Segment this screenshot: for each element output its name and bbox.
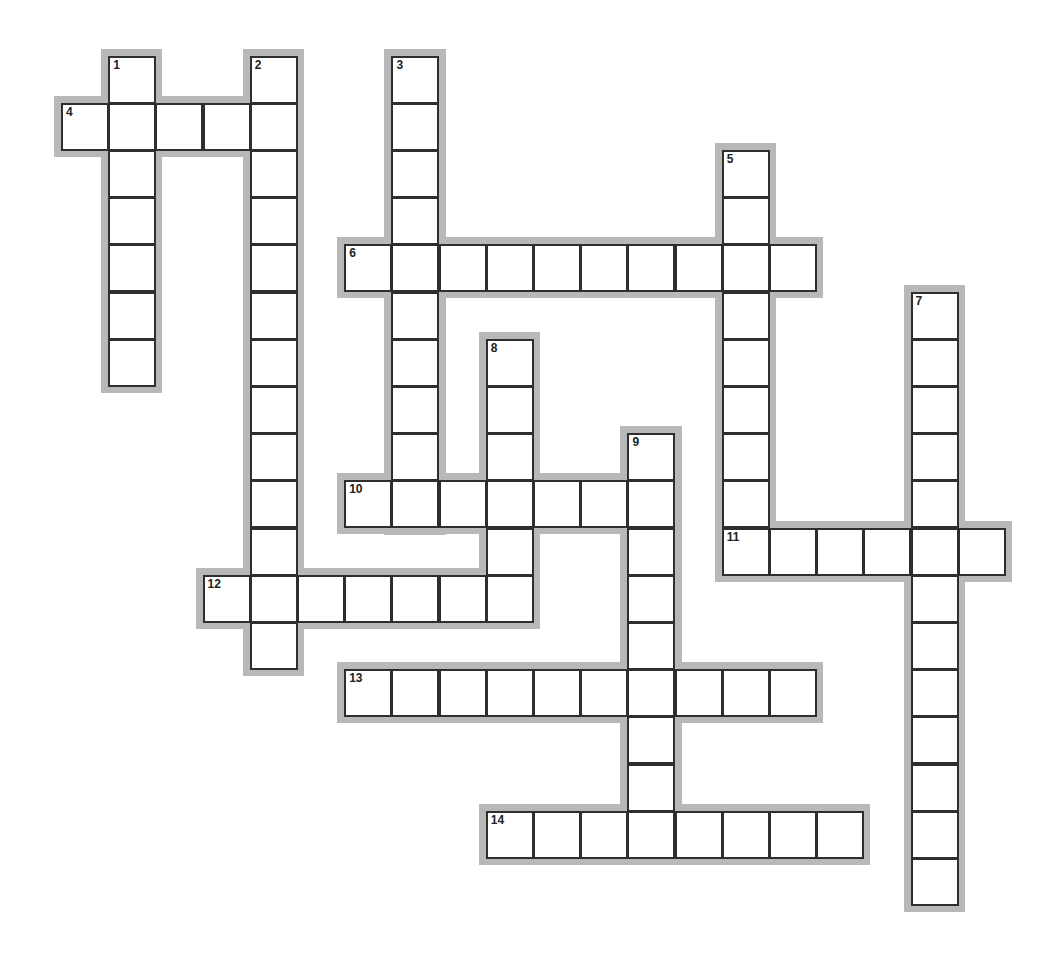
crossword-cell[interactable]	[250, 244, 298, 292]
crossword-cell[interactable]	[911, 858, 959, 906]
crossword-cell[interactable]	[486, 669, 534, 717]
crossword-cell[interactable]	[580, 480, 628, 528]
crossword-cell[interactable]	[722, 244, 770, 292]
crossword-cell[interactable]	[769, 528, 817, 576]
crossword-cell[interactable]	[911, 764, 959, 812]
crossword-cell[interactable]	[533, 811, 581, 859]
crossword-cell[interactable]	[297, 575, 345, 623]
crossword-cell[interactable]	[675, 244, 723, 292]
crossword-cell[interactable]	[391, 339, 439, 387]
crossword-cell[interactable]: 8	[486, 339, 534, 387]
crossword-cell[interactable]	[722, 811, 770, 859]
crossword-cell[interactable]	[627, 716, 675, 764]
crossword-cell[interactable]	[911, 339, 959, 387]
crossword-cell[interactable]	[250, 339, 298, 387]
crossword-cell[interactable]	[391, 575, 439, 623]
crossword-cell[interactable]	[627, 669, 675, 717]
crossword-cell[interactable]	[250, 433, 298, 481]
crossword-cell[interactable]	[108, 339, 156, 387]
crossword-cell[interactable]	[627, 575, 675, 623]
crossword-cell[interactable]	[580, 244, 628, 292]
crossword-cell[interactable]	[108, 244, 156, 292]
crossword-cell[interactable]	[108, 103, 156, 151]
crossword-cell[interactable]	[722, 669, 770, 717]
crossword-cell[interactable]	[391, 244, 439, 292]
crossword-cell[interactable]: 11	[722, 528, 770, 576]
crossword-cell[interactable]	[911, 811, 959, 859]
crossword-cell[interactable]: 7	[911, 292, 959, 340]
crossword-cell[interactable]	[769, 244, 817, 292]
crossword-cell[interactable]	[486, 528, 534, 576]
crossword-cell[interactable]: 13	[344, 669, 392, 717]
crossword-cell[interactable]	[155, 103, 203, 151]
crossword-cell[interactable]	[911, 386, 959, 434]
crossword-cell[interactable]	[344, 575, 392, 623]
crossword-cell[interactable]	[108, 150, 156, 198]
crossword-cell[interactable]	[533, 480, 581, 528]
crossword-cell[interactable]: 4	[61, 103, 109, 151]
crossword-cell[interactable]	[627, 244, 675, 292]
crossword-cell[interactable]	[391, 197, 439, 245]
crossword-cell[interactable]	[391, 480, 439, 528]
crossword-cell[interactable]	[722, 480, 770, 528]
crossword-cell[interactable]	[722, 339, 770, 387]
crossword-cell[interactable]	[580, 669, 628, 717]
crossword-cell[interactable]	[250, 197, 298, 245]
crossword-cell[interactable]	[203, 103, 251, 151]
crossword-cell[interactable]	[250, 575, 298, 623]
crossword-cell[interactable]	[675, 669, 723, 717]
crossword-cell[interactable]	[391, 150, 439, 198]
crossword-cell[interactable]	[911, 716, 959, 764]
crossword-cell[interactable]: 6	[344, 244, 392, 292]
crossword-cell[interactable]	[486, 386, 534, 434]
crossword-cell[interactable]	[391, 103, 439, 151]
crossword-cell[interactable]	[486, 480, 534, 528]
crossword-cell[interactable]	[250, 150, 298, 198]
crossword-cell[interactable]: 9	[627, 433, 675, 481]
crossword-cell[interactable]	[391, 386, 439, 434]
crossword-cell[interactable]	[250, 528, 298, 576]
crossword-cell[interactable]: 12	[203, 575, 251, 623]
crossword-cell[interactable]	[911, 669, 959, 717]
crossword-cell[interactable]	[911, 528, 959, 576]
crossword-cell[interactable]: 2	[250, 56, 298, 104]
crossword-cell[interactable]	[486, 244, 534, 292]
crossword-cell[interactable]	[391, 433, 439, 481]
crossword-cell[interactable]	[533, 669, 581, 717]
crossword-cell[interactable]	[250, 103, 298, 151]
crossword-cell[interactable]	[769, 811, 817, 859]
crossword-cell[interactable]	[391, 292, 439, 340]
crossword-cell[interactable]	[108, 197, 156, 245]
crossword-cell[interactable]: 5	[722, 150, 770, 198]
crossword-cell[interactable]	[439, 575, 487, 623]
crossword-cell[interactable]	[816, 528, 864, 576]
crossword-cell[interactable]: 3	[391, 56, 439, 104]
crossword-cell[interactable]	[911, 433, 959, 481]
crossword-cell[interactable]	[250, 386, 298, 434]
crossword-cell[interactable]	[627, 528, 675, 576]
crossword-cell[interactable]	[722, 197, 770, 245]
crossword-cell[interactable]	[863, 528, 911, 576]
crossword-cell[interactable]	[627, 811, 675, 859]
crossword-cell[interactable]	[486, 433, 534, 481]
crossword-cell[interactable]	[627, 622, 675, 670]
crossword-cell[interactable]	[911, 575, 959, 623]
crossword-cell[interactable]	[580, 811, 628, 859]
crossword-cell[interactable]	[675, 811, 723, 859]
crossword-cell[interactable]	[108, 292, 156, 340]
crossword-cell[interactable]	[627, 764, 675, 812]
crossword-cell[interactable]	[722, 386, 770, 434]
crossword-cell[interactable]	[439, 480, 487, 528]
crossword-cell[interactable]	[911, 480, 959, 528]
crossword-cell[interactable]	[486, 575, 534, 623]
crossword-cell[interactable]	[722, 433, 770, 481]
crossword-cell[interactable]: 1	[108, 56, 156, 104]
crossword-cell[interactable]	[391, 669, 439, 717]
crossword-cell[interactable]	[816, 811, 864, 859]
crossword-cell[interactable]: 14	[486, 811, 534, 859]
crossword-cell[interactable]: 10	[344, 480, 392, 528]
crossword-cell[interactable]	[250, 480, 298, 528]
crossword-cell[interactable]	[250, 622, 298, 670]
crossword-cell[interactable]	[439, 244, 487, 292]
crossword-cell[interactable]	[533, 244, 581, 292]
